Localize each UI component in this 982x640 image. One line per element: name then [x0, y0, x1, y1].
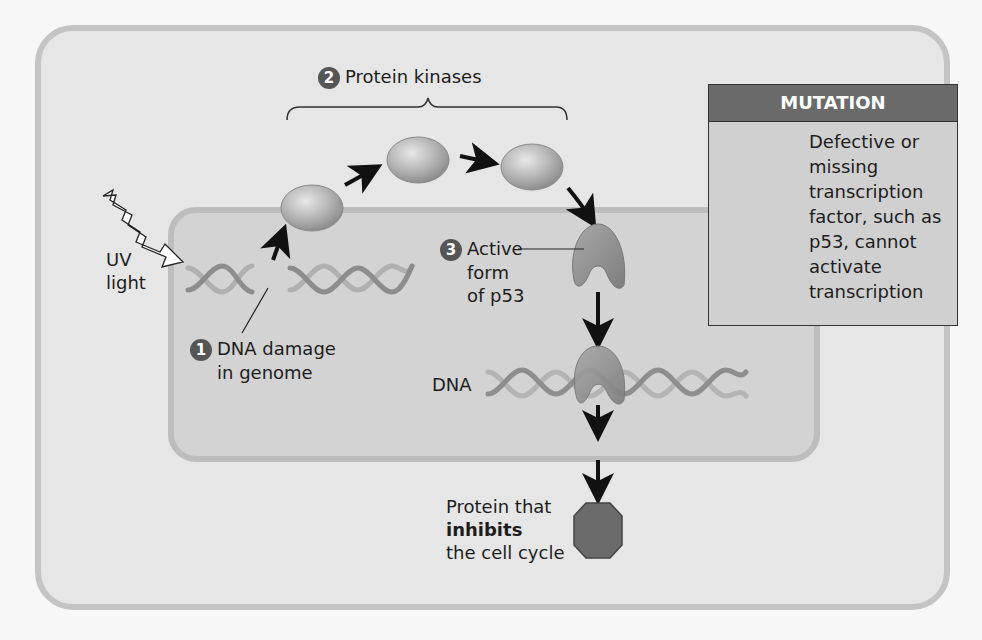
kinase-1: [281, 185, 343, 231]
step-badge: 3: [440, 239, 462, 261]
kinase-2: [387, 137, 449, 183]
product-label: Protein that inhibits the cell cycle: [446, 495, 564, 564]
step-badge: 2: [318, 67, 340, 89]
mutation-box: MUTATION Defective or missing transcript…: [708, 84, 958, 326]
damaged-dna-icon: [188, 266, 412, 292]
kinase-3: [501, 144, 563, 190]
kinase-brace: [287, 98, 567, 120]
mutation-header: MUTATION: [709, 85, 957, 122]
step-badge: 1: [190, 339, 212, 361]
mutation-description: Defective or missing transcription facto…: [809, 129, 941, 304]
dna-label: DNA: [432, 373, 472, 396]
leader-line: [242, 288, 268, 333]
step-2-label: 2Protein kinases: [318, 65, 482, 89]
step-3-label: 3Active form of p53: [440, 237, 524, 307]
step-1-label: 1DNA damage in genome: [190, 337, 336, 384]
inhibitor-protein-icon: [574, 503, 622, 558]
uv-light-label: UV light: [106, 248, 146, 294]
p53-bound-dna-icon: [574, 346, 624, 404]
active-p53-icon: [573, 224, 625, 288]
